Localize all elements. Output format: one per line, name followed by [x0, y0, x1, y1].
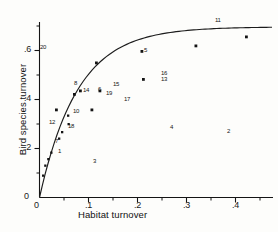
point-label-17: 17 [124, 96, 130, 102]
point-label-10: 10 [73, 108, 79, 114]
point-label-14: 14 [83, 87, 89, 93]
point-label-11: 11 [215, 17, 221, 23]
scatter-plot-figure: 0 .2 .4 .6 0 .1 .2 .3 .4 Habitat turnove… [0, 0, 278, 232]
point-label-13: 13 [161, 76, 167, 82]
y-axis-title: Bird species turnover [17, 44, 28, 176]
point-label-12: 12 [49, 119, 55, 125]
point-label-8: 8 [74, 80, 77, 86]
x-tick-label-0: 0 [34, 200, 39, 210]
y-major-ticks [35, 51, 40, 149]
point-label-15: 15 [113, 81, 119, 87]
y-tick-label-0: 0 [24, 191, 29, 201]
point-label-4: 4 [170, 124, 173, 130]
point-label-5: 5 [144, 47, 147, 53]
x-tick-label-04: .4 [232, 200, 239, 210]
point-label-1: 1 [58, 148, 61, 154]
point-label-3: 3 [93, 158, 96, 164]
point-label-7: 7 [55, 138, 58, 144]
x-tick-label-03: .3 [183, 200, 190, 210]
point-label-2: 2 [227, 128, 230, 134]
point-label-6: 6 [98, 86, 101, 92]
plot-canvas [0, 0, 278, 232]
point-label-20: 20 [40, 44, 46, 50]
point-label-18: 18 [68, 123, 74, 129]
x-axis-title: Habitat turnover [78, 209, 147, 220]
data-point-markers [42, 36, 248, 177]
point-label-19: 19 [106, 90, 112, 96]
